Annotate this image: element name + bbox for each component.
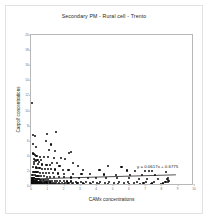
data-point	[62, 169, 64, 171]
y-tick-label: 14	[25, 78, 28, 82]
y-tick-label: 20	[25, 33, 28, 37]
y-tick-mark	[29, 125, 31, 126]
y-tick-mark	[29, 95, 31, 96]
data-point	[92, 181, 94, 183]
data-point	[141, 174, 143, 176]
data-point	[107, 183, 109, 184]
y-tick-mark	[29, 171, 31, 172]
data-point	[34, 135, 36, 137]
x-tick-mark	[31, 184, 32, 186]
x-tick-mark	[63, 184, 64, 186]
data-point	[162, 182, 164, 184]
scatter-plot-area	[31, 35, 192, 184]
data-point	[146, 178, 148, 180]
x-tick-label: 2	[63, 187, 65, 191]
y-tick-label: 16	[25, 63, 28, 67]
x-tick-label: 5	[112, 187, 114, 191]
y-axis-title: Carpolf concentrations	[14, 34, 24, 185]
data-point	[44, 168, 46, 170]
data-point	[139, 183, 141, 184]
data-point	[63, 173, 65, 175]
data-point	[70, 151, 72, 153]
x-tick-label: 6	[128, 187, 130, 191]
x-tick-mark	[194, 184, 195, 186]
x-tick-label: 4	[95, 187, 97, 191]
y-tick-label: 4	[27, 154, 29, 158]
y-tick-label: 18	[25, 48, 28, 52]
x-tick-label: 7	[144, 187, 146, 191]
x-tick-mark	[129, 184, 130, 186]
x-tick-mark	[47, 184, 48, 186]
data-point	[150, 183, 152, 184]
data-point	[50, 143, 52, 145]
data-point	[58, 165, 60, 167]
y-tick-mark	[29, 140, 31, 141]
chart-title: Secondary PM - Rural cell - Trento	[0, 13, 208, 19]
y-tick-label: 10	[25, 109, 28, 113]
x-tick-label: 9	[177, 187, 179, 191]
regression-equation-label: y = 0.0617x + 0.6775	[137, 164, 178, 169]
x-tick-mark	[96, 184, 97, 186]
data-point	[35, 160, 37, 162]
x-tick-mark	[80, 184, 81, 186]
data-point	[78, 177, 80, 179]
data-point	[87, 177, 89, 179]
data-point	[120, 166, 122, 168]
data-point	[138, 178, 140, 180]
data-point	[47, 168, 49, 170]
x-tick-mark	[161, 184, 162, 186]
data-point	[57, 172, 59, 174]
x-tick-mark	[145, 184, 146, 186]
y-tick-label: 8	[27, 124, 29, 128]
data-point	[39, 156, 41, 158]
x-tick-mark	[177, 184, 178, 186]
data-point	[126, 169, 128, 171]
data-point	[35, 155, 37, 157]
y-tick-label: 0	[27, 184, 29, 188]
data-point	[53, 157, 55, 159]
y-tick-mark	[29, 50, 31, 51]
x-axis-title: CAMx concentrations	[30, 197, 193, 202]
x-tick-label: 8	[161, 187, 163, 191]
y-tick-label: 2	[27, 169, 29, 173]
y-tick-label: 12	[25, 93, 28, 97]
data-point	[42, 172, 44, 174]
data-point	[35, 146, 37, 148]
x-tick-label: 10	[192, 187, 195, 191]
chart-figure: Secondary PM - Rural cell - Trento 02468…	[0, 0, 208, 219]
data-point	[45, 164, 47, 166]
data-point	[46, 176, 48, 178]
y-tick-mark	[29, 35, 31, 36]
data-point	[32, 143, 34, 145]
data-point	[67, 169, 69, 171]
y-tick-mark	[29, 80, 31, 81]
data-point	[43, 156, 45, 158]
data-point	[72, 173, 74, 175]
x-tick-mark	[112, 184, 113, 186]
data-point	[51, 162, 53, 164]
x-tick-label: 3	[79, 187, 81, 191]
y-tick-mark	[29, 65, 31, 66]
plot-frame: 02468101214161820 012345678910 y = 0.061…	[30, 34, 193, 185]
y-tick-label: 6	[27, 139, 29, 143]
data-point	[80, 173, 82, 175]
x-tick-label: 0	[30, 187, 32, 191]
data-point	[70, 176, 72, 178]
data-point	[115, 174, 117, 176]
x-tick-label: 1	[46, 187, 48, 191]
data-point	[48, 149, 50, 151]
data-point	[41, 168, 43, 170]
y-tick-mark	[29, 156, 31, 157]
y-tick-mark	[29, 110, 31, 111]
